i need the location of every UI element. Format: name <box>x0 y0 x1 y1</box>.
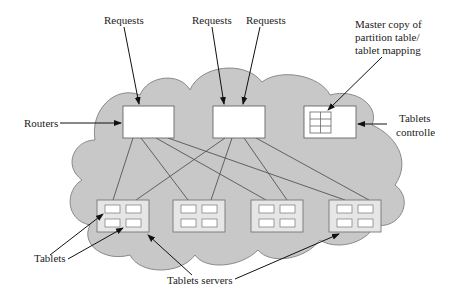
label-requests-2: Requests <box>192 14 232 26</box>
tablets-controller-box <box>304 106 356 138</box>
label-tablet-servers: Tablets servers <box>167 274 233 286</box>
tablet-architecture-diagram: Requests Requests Requests Routers Maste… <box>0 0 454 301</box>
label-master-line2: partition table/ <box>355 31 420 43</box>
tablet-server-3 <box>251 200 303 232</box>
tablet-server-2 <box>173 200 225 232</box>
partition-table-icon <box>310 112 331 133</box>
network-cloud <box>70 68 404 270</box>
label-master-line3: tablet mapping <box>355 44 421 56</box>
label-requests-1: Requests <box>104 14 144 26</box>
router-box-1 <box>123 106 174 138</box>
label-master-line1: Master copy of <box>355 18 422 30</box>
router-box-2 <box>213 106 265 138</box>
label-requests-3: Requests <box>246 14 286 26</box>
tablet-server-1 <box>97 200 149 232</box>
tablet-server-4 <box>329 200 381 232</box>
label-controller-line2: controlle <box>396 126 435 138</box>
label-routers: Routers <box>24 117 58 129</box>
label-tablets: Tablets <box>34 252 66 264</box>
label-controller-line1: Tablets <box>399 112 431 124</box>
